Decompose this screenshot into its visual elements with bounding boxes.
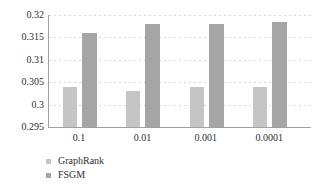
- y-tick-label-0.295: 0.295: [0, 122, 44, 132]
- bar-group-0.001: [190, 24, 224, 127]
- bar-group-0.01: [126, 24, 160, 127]
- legend-item-graphrank: GraphRank: [46, 154, 104, 168]
- bar-fsgm-0.001: [209, 24, 224, 127]
- plot-area: [48, 15, 311, 128]
- legend-item-fsgm: FSGM: [46, 168, 104, 182]
- bar-graphrank-0.01: [126, 91, 140, 127]
- bar-group-0.1: [63, 33, 97, 127]
- legend-swatch-icon: [46, 173, 51, 178]
- bar-fsgm-0.01: [145, 24, 160, 127]
- bar-fsgm-0.1: [82, 33, 97, 127]
- x-tick-label-0.0001: 0.0001: [239, 132, 299, 144]
- bar-graphrank-0.1: [63, 87, 77, 127]
- x-tick-label-0.1: 0.1: [49, 132, 109, 144]
- y-tick-label-0.31: 0.31: [0, 55, 44, 65]
- bar-graphrank-0.001: [190, 87, 204, 127]
- bar-group-0.0001: [253, 22, 287, 127]
- y-tick-label-0.315: 0.315: [0, 32, 44, 42]
- legend-swatch-icon: [46, 159, 51, 164]
- bar-fsgm-0.0001: [272, 22, 287, 127]
- bar-chart-figure: 0.320.3150.310.3050.30.295 0.10.010.0010…: [0, 0, 320, 190]
- y-tick-label-0.3: 0.3: [0, 100, 44, 110]
- bar-graphrank-0.0001: [253, 87, 267, 127]
- legend-label: GraphRank: [58, 155, 104, 167]
- y-tick-label-0.305: 0.305: [0, 77, 44, 87]
- y-tick-label-0.32: 0.32: [0, 10, 44, 20]
- gridline-0.32: [49, 15, 311, 16]
- x-tick-label-0.001: 0.001: [176, 132, 236, 144]
- x-tick-label-0.01: 0.01: [112, 132, 172, 144]
- legend-label: FSGM: [58, 169, 85, 181]
- legend: GraphRankFSGM: [46, 154, 104, 182]
